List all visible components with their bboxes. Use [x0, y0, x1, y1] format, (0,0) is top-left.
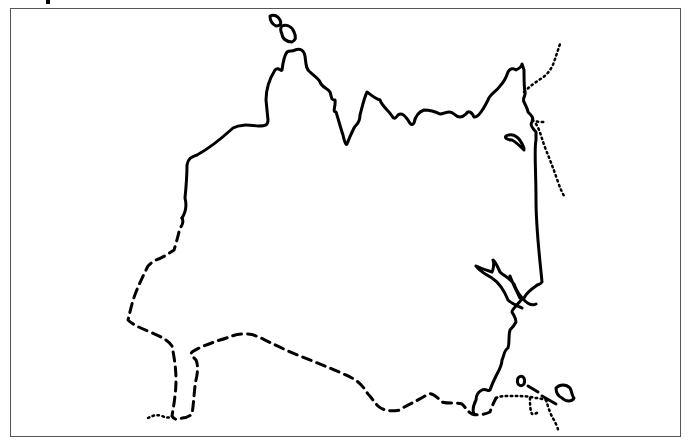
dotted-border-ne — [524, 44, 560, 92]
island — [517, 376, 524, 385]
island — [281, 25, 296, 42]
dotted-border-sw — [148, 415, 172, 418]
island — [542, 396, 556, 404]
coastline-bay-north — [505, 135, 524, 150]
land-border — [128, 218, 496, 419]
map-canvas — [0, 0, 690, 444]
coastline-estuary — [476, 260, 536, 308]
island — [528, 386, 538, 392]
coastline — [182, 49, 542, 414]
island — [556, 385, 574, 401]
island — [270, 15, 281, 26]
